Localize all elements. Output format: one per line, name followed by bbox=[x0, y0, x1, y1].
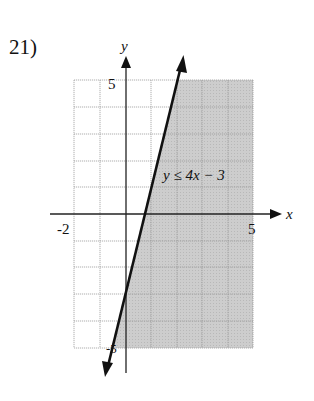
x-axis-label: x bbox=[285, 206, 293, 222]
inequality-graph: y x 5 -5 -2 5 y ≤ 4x − 3 bbox=[0, 0, 314, 401]
inequality-annotation: y ≤ 4x − 3 bbox=[161, 167, 225, 183]
y-tick-5: 5 bbox=[108, 76, 116, 92]
y-axis-label: y bbox=[119, 38, 128, 54]
y-axis-arrow-icon bbox=[121, 56, 131, 68]
line-arrow-up-icon bbox=[176, 55, 187, 73]
x-tick-neg2: -2 bbox=[57, 221, 70, 237]
x-axis-arrow-icon bbox=[270, 209, 282, 219]
x-tick-5: 5 bbox=[248, 221, 256, 237]
y-tick-neg5: -5 bbox=[106, 341, 117, 356]
line-arrow-down-icon bbox=[102, 361, 113, 377]
